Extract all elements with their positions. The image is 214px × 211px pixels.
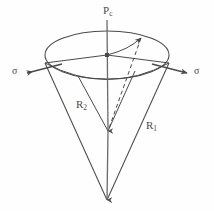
vertical-axis-lower bbox=[107, 131, 108, 200]
vertical-axis-upper bbox=[107, 20, 108, 131]
radius-label-r2: R2 bbox=[76, 99, 87, 110]
radius-label-r2-subscript: 2 bbox=[83, 103, 87, 112]
sigma-label-left: σ bbox=[12, 66, 17, 76]
sigma-label-right: σ bbox=[194, 66, 199, 76]
cone-generatrix-left bbox=[45, 63, 107, 200]
radius-label-r1-subscript: 1 bbox=[153, 124, 157, 133]
radius-label-r1: R1 bbox=[146, 120, 157, 131]
diagram-canvas bbox=[0, 0, 214, 211]
centre-point-marker bbox=[105, 53, 109, 57]
radius-chord-right bbox=[107, 55, 169, 63]
radius-chord-left bbox=[45, 55, 107, 63]
inner-cone-generatrix-right bbox=[108, 71, 135, 131]
cone-diagram-figure: Pc σ σ R2 R1 bbox=[0, 0, 214, 211]
axis-label-pc-subscript: c bbox=[109, 9, 112, 18]
axis-label-pc: Pc bbox=[103, 5, 112, 16]
cone-generatrix-right bbox=[107, 63, 169, 200]
dashed-construction-line bbox=[108, 38, 141, 131]
